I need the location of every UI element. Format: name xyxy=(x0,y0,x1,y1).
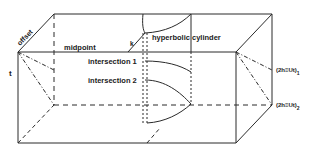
k-label: k xyxy=(130,40,134,47)
t-label: t xyxy=(9,69,12,78)
intersection-2-lower-curve xyxy=(147,104,191,123)
box-diagram: offset midpoint k t hyperbolic cylinder … xyxy=(0,0,319,153)
top-right-edge xyxy=(236,14,272,52)
plane-1-label: (2h≡Ut)1 xyxy=(276,67,300,76)
hyperbolic-cylinder-label: hyperbolic cylinder xyxy=(152,33,221,42)
plane-1-line xyxy=(236,52,272,70)
t-line-1 xyxy=(18,52,54,70)
hidden-cylinder-base xyxy=(147,128,160,143)
diagram-canvas: offset midpoint k t hyperbolic cylinder … xyxy=(0,0,319,153)
bottom-right-edge xyxy=(236,105,272,143)
cylinder-top-curve xyxy=(145,14,191,33)
t-line-2 xyxy=(18,52,54,105)
midpoint-label: midpoint xyxy=(64,43,96,52)
intersection-2-label: intersection 2 xyxy=(88,76,137,85)
cylinder-left-top xyxy=(143,14,145,33)
intersection-1-curve xyxy=(145,61,191,72)
hidden-bottom-left-edge xyxy=(18,105,54,143)
plane-2-line xyxy=(236,52,272,105)
intersection-1-label: intersection 1 xyxy=(88,57,137,66)
plane-2-label: (2h≡Ut)2 xyxy=(276,102,300,111)
intersection-2-curve xyxy=(145,80,191,104)
